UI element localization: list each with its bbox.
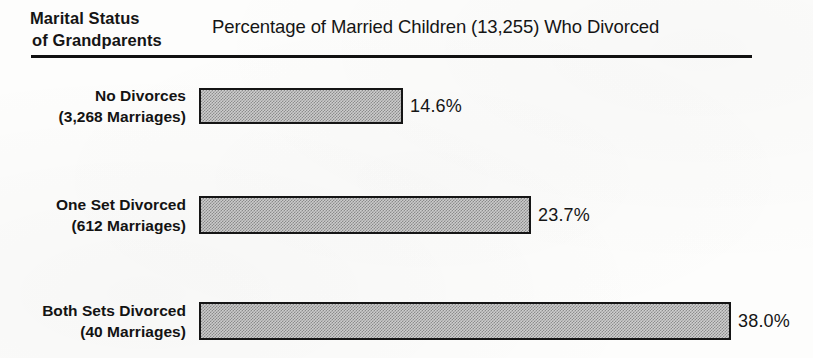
bar-value-label: 23.7% [538,205,590,226]
bar-value-label: 38.0% [738,311,790,332]
bar-row-label: No Divorces (3,268 Marriages) [0,86,186,127]
bar-one-set-divorced [199,196,531,234]
bar-row-label: One Set Divorced (612 Marriages) [0,195,186,236]
bar-row-label-line2: (3,268 Marriages) [0,107,186,128]
category-axis-title-line2: of Grandparents [30,30,205,52]
bar-row-label-line2: (40 Marriages) [0,322,186,343]
bar-row-label-line2: (612 Marriages) [0,216,186,237]
bar-no-divorces [199,88,403,124]
bar-row: One Set Divorced (612 Marriages) 23.7% [0,194,813,236]
bar-row-label-line1: One Set Divorced [0,195,186,216]
category-axis-title-line1: Marital Status [30,8,205,30]
bar-row: No Divorces (3,268 Marriages) 14.6% [0,86,813,126]
bar-track: 23.7% [199,196,813,234]
bar-track: 14.6% [199,88,813,124]
header-divider-rule [31,55,752,58]
chart-title: Percentage of Married Children (13,255) … [212,16,659,38]
bar-both-sets-divorced [199,302,731,340]
bar-row-label-line1: No Divorces [0,86,186,107]
bar-value-label: 14.6% [410,96,462,117]
bar-row-label-line1: Both Sets Divorced [0,301,186,322]
bar-row-label: Both Sets Divorced (40 Marriages) [0,301,186,342]
bar-track: 38.0% [199,302,813,340]
bar-row: Both Sets Divorced (40 Marriages) 38.0% [0,300,813,342]
category-axis-title: Marital Status of Grandparents [30,8,205,52]
bar-chart-figure: Marital Status of Grandparents Percentag… [0,0,813,358]
